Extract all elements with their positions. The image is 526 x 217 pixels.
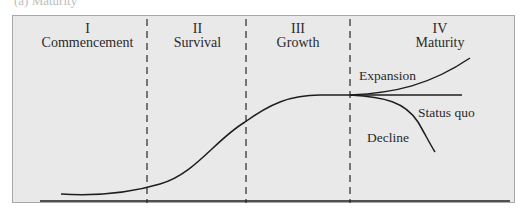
- stage-survival: II Survival: [160, 22, 235, 50]
- stage-name: Survival: [160, 36, 235, 50]
- stage-maturity: IV Maturity: [395, 22, 485, 50]
- growth-curve: [61, 95, 350, 195]
- stage-numeral: I: [30, 22, 145, 36]
- stage-numeral: III: [258, 22, 338, 36]
- label-decline: Decline: [367, 130, 409, 146]
- stage-name: Commencement: [30, 36, 145, 50]
- stage-commencement: I Commencement: [30, 22, 145, 50]
- stage-name: Maturity: [395, 36, 485, 50]
- label-expansion: Expansion: [359, 68, 416, 84]
- stage-numeral: II: [160, 22, 235, 36]
- stage-numeral: IV: [395, 22, 485, 36]
- stage-name: Growth: [258, 36, 338, 50]
- label-status-quo: Status quo: [418, 105, 475, 121]
- stage-growth: III Growth: [258, 22, 338, 50]
